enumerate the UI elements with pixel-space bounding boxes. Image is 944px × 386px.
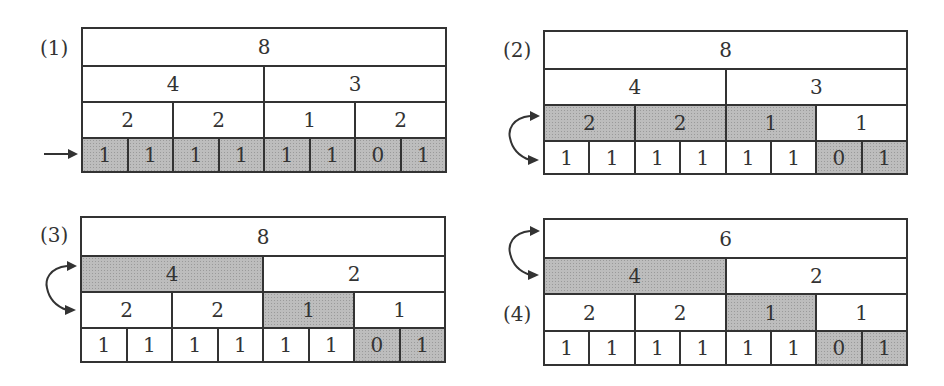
tree-cell: 1 (353, 293, 444, 327)
tree-cell: 2 (634, 295, 725, 330)
tree-cell: 2 (82, 293, 171, 327)
tree-row-2: 2 2 1 1 (545, 293, 906, 330)
tree-cell: 8 (545, 32, 906, 68)
right-arrow-icon (44, 146, 80, 162)
tree-row-3: 1 1 1 1 1 1 0 1 (545, 140, 906, 173)
panel-label: (2) (503, 38, 531, 62)
tree-row-2: 2 2 1 1 (545, 104, 906, 140)
tree-cell: 1 (679, 332, 724, 364)
tree-cell: 1 (725, 295, 816, 330)
tree-cell: 1 (725, 106, 816, 140)
tree-cell: 1 (309, 139, 355, 171)
tree-cell: 4 (545, 70, 725, 104)
tree-cell: 1 (815, 295, 906, 330)
tree-row-2: 2 2 1 2 (83, 101, 445, 137)
panel-label: (4) (503, 302, 531, 326)
tree-cell: 1 (83, 139, 127, 171)
tree-cell: 1 (217, 329, 263, 361)
tree-cell: 1 (400, 139, 446, 171)
tree-row-3: 1 1 1 1 1 1 0 1 (82, 327, 444, 361)
curved-swap-arrow-icon (43, 258, 79, 318)
tree-cell: 1 (815, 106, 906, 140)
tree-row-3: 1 1 1 1 1 1 0 1 (83, 137, 445, 171)
tree-cell: 3 (725, 70, 907, 104)
tree-cell: 1 (263, 103, 354, 137)
tree-row-0: 6 (545, 220, 906, 257)
tree-cell: 1 (262, 329, 308, 361)
tree-cell: 2 (725, 259, 907, 293)
tree-grid: 8 4 3 2 2 1 1 1 1 1 1 1 1 0 1 (543, 30, 908, 175)
tree-row-1: 4 2 (82, 255, 444, 291)
tree-cell: 2 (172, 103, 263, 137)
tree-cell: 1 (634, 142, 679, 173)
tree-cell: 1 (218, 139, 264, 171)
tree-cell: 1 (399, 329, 445, 361)
tree-cell: 4 (83, 67, 263, 101)
tree-row-0: 8 (545, 32, 906, 68)
tree-cell: 1 (126, 329, 172, 361)
tree-cell: 1 (588, 332, 633, 364)
tree-cell: 2 (354, 103, 445, 137)
tree-cell: 1 (127, 139, 173, 171)
tree-row-1: 4 3 (545, 68, 906, 104)
tree-cell: 2 (545, 295, 634, 330)
tree-cell: 1 (588, 142, 633, 173)
tree-grid: 8 4 3 2 2 1 2 1 1 1 1 1 1 0 1 (81, 27, 447, 173)
tree-cell: 8 (83, 29, 445, 65)
tree-cell: 1 (545, 142, 588, 173)
tree-cell: 1 (725, 142, 770, 173)
tree-row-0: 8 (82, 218, 444, 255)
tree-cell: 1 (172, 139, 218, 171)
tree-cell: 3 (263, 67, 445, 101)
tree-cell: 1 (82, 329, 126, 361)
panel-label: (3) (40, 223, 68, 247)
tree-cell: 2 (545, 106, 634, 140)
tree-grid: 6 4 2 2 2 1 1 1 1 1 1 1 1 0 1 (543, 218, 908, 366)
curved-swap-arrow-icon (506, 108, 542, 168)
tree-cell: 1 (262, 293, 353, 327)
tree-row-0: 8 (83, 29, 445, 65)
tree-cell: 1 (171, 329, 217, 361)
tree-row-1: 4 3 (83, 65, 445, 101)
tree-cell: 1 (770, 142, 815, 173)
tree-cell: 4 (545, 259, 725, 293)
tree-cell: 4 (82, 257, 262, 291)
curved-swap-arrow-icon (506, 223, 542, 283)
tree-cell: 1 (770, 332, 815, 364)
tree-cell: 1 (725, 332, 770, 364)
tree-cell: 1 (679, 142, 724, 173)
panel-label: (1) (40, 36, 68, 60)
tree-row-2: 2 2 1 1 (82, 291, 444, 327)
tree-cell: 2 (634, 106, 725, 140)
tree-cell: 2 (262, 257, 444, 291)
tree-cell: 1 (263, 139, 309, 171)
tree-cell: 0 (815, 332, 860, 364)
tree-cell: 1 (308, 329, 354, 361)
tree-cell: 1 (545, 332, 588, 364)
tree-cell: 8 (82, 218, 444, 255)
tree-cell: 6 (545, 220, 906, 257)
tree-cell: 1 (861, 142, 906, 173)
tree-grid: 8 4 2 2 2 1 1 1 1 1 1 1 1 0 1 (80, 216, 446, 363)
tree-row-1: 4 2 (545, 257, 906, 293)
tree-cell: 0 (815, 142, 860, 173)
tree-cell: 1 (634, 332, 679, 364)
tree-cell: 2 (83, 103, 172, 137)
tree-cell: 0 (354, 139, 400, 171)
tree-cell: 0 (353, 329, 399, 361)
tree-cell: 1 (861, 332, 906, 364)
tree-row-3: 1 1 1 1 1 1 0 1 (545, 330, 906, 364)
tree-cell: 2 (171, 293, 262, 327)
